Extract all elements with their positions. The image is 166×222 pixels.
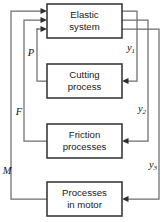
- arrowhead-y2-into-friction: [122, 138, 129, 144]
- signal-label-y1: y1: [126, 42, 135, 54]
- block-elastic-system-line1: Elastic: [70, 9, 98, 20]
- arrowhead-M-into-elastic: [41, 8, 48, 14]
- arrowhead-y1-into-cutting: [122, 78, 129, 84]
- block-friction-processes-line1: Friction: [69, 129, 100, 140]
- block-cutting-process-line1: Cutting: [69, 69, 99, 80]
- block-processes-in-motor[interactable]: Processes in motor: [47, 182, 122, 216]
- signal-label-y2-sub: 2: [143, 108, 147, 116]
- signal-label-P: P: [27, 47, 35, 58]
- arrowhead-y3-into-motor: [122, 196, 129, 202]
- svg-text:y1: y1: [126, 42, 135, 54]
- block-diagram-svg: Elastic system Cutting process Friction …: [0, 0, 166, 222]
- block-elastic-system-line2: system: [69, 21, 99, 32]
- svg-text:y3: y3: [148, 159, 158, 171]
- svg-text:y2: y2: [137, 103, 147, 115]
- block-friction-processes-line2: processes: [63, 141, 107, 152]
- block-diagram-canvas: Elastic system Cutting process Friction …: [0, 0, 166, 222]
- block-processes-in-motor-line1: Processes: [62, 187, 107, 198]
- wire-M: [11, 11, 47, 199]
- signal-label-y3: y3: [148, 159, 158, 171]
- block-cutting-process-line2: process: [68, 81, 102, 92]
- signal-label-y1-sub: 1: [132, 47, 136, 55]
- signal-label-M: M: [2, 165, 13, 176]
- wire-P: [37, 29, 47, 81]
- block-cutting-process[interactable]: Cutting process: [47, 64, 122, 98]
- block-elastic-system[interactable]: Elastic system: [47, 4, 122, 38]
- signal-label-y2: y2: [137, 103, 147, 115]
- signal-label-F: F: [15, 106, 23, 117]
- block-processes-in-motor-line2: in motor: [67, 199, 102, 210]
- signal-label-y3-sub: 3: [153, 164, 158, 172]
- arrowhead-F-into-elastic: [41, 17, 48, 23]
- block-friction-processes[interactable]: Friction processes: [47, 124, 122, 158]
- arrowhead-P-into-elastic: [41, 26, 48, 32]
